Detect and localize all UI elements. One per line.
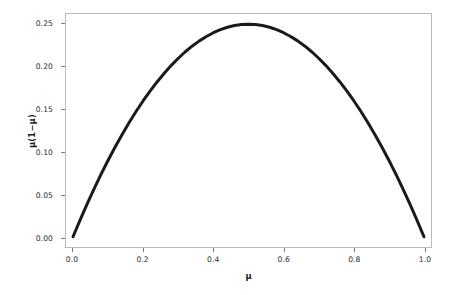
y-tick-label: 0.15 [36,105,53,114]
x-axis-tick-marks [65,248,432,254]
y-tick-label: 0.05 [36,190,53,199]
data-series-curve [66,14,431,247]
y-axis-tick-labels: 0.000.050.100.150.200.25 [0,13,61,248]
plot-area [65,13,432,248]
x-tick-label: 0.2 [136,255,148,264]
x-tick-label: 0.8 [348,255,360,264]
x-tick-mark [143,248,144,252]
x-tick-mark [213,248,214,252]
x-axis-label: μ [65,271,432,281]
x-tick-mark [72,248,73,252]
y-tick-label: 0.10 [36,147,53,156]
x-tick-label: 0.6 [278,255,290,264]
figure-canvas: μ(1−μ) 0.000.050.100.150.200.25 0.00.20.… [0,0,456,295]
x-axis-tick-labels: 0.00.20.40.60.81.0 [65,255,432,269]
y-tick-label: 0.20 [36,62,53,71]
x-tick-mark [354,248,355,252]
y-tick-label: 0.25 [36,19,53,28]
x-tick-label: 1.0 [419,255,431,264]
x-tick-mark [284,248,285,252]
x-tick-label: 0.0 [66,255,78,264]
x-tick-mark [425,248,426,252]
x-tick-label: 0.4 [207,255,219,264]
y-tick-label: 0.00 [36,233,53,242]
curve-polyline [73,24,424,237]
